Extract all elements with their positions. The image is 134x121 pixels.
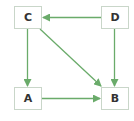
- directed-graph-diagram: C D A B: [0, 0, 134, 121]
- node-b-label: B: [111, 93, 119, 104]
- node-c-label: C: [24, 12, 32, 23]
- node-a-label: A: [24, 93, 33, 104]
- node-d-label: D: [110, 12, 119, 23]
- node-c: C: [14, 6, 42, 29]
- edge-c-to-b: [40, 29, 101, 86]
- node-a: A: [14, 87, 42, 110]
- node-d: D: [101, 6, 129, 29]
- node-b: B: [101, 87, 129, 110]
